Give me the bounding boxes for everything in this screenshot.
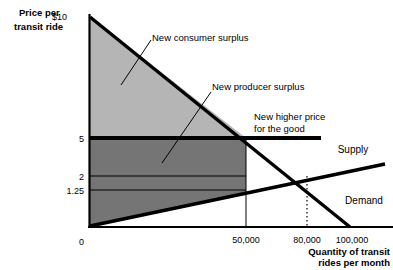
x-axis-title-line1: Quantity of transit xyxy=(308,246,391,257)
producer-surplus-region xyxy=(90,138,246,226)
chart-canvas: Price per transit ride $10 5 2 1.25 0 50… xyxy=(0,0,393,270)
supply-demand-chart: Price per transit ride $10 5 2 1.25 0 50… xyxy=(0,0,393,270)
y-tick-label-2: 2 xyxy=(79,172,84,182)
new-price-label-line1: New higher price xyxy=(254,111,325,122)
producer-surplus-label: New producer surplus xyxy=(212,81,305,92)
demand-curve-label: Demand xyxy=(345,195,383,206)
x-tick-label-100k: 100,000 xyxy=(336,235,369,245)
supply-curve-label: Supply xyxy=(338,144,369,155)
x-axis-title-line2: rides per month xyxy=(318,257,390,268)
x-tick-label-80k: 80,000 xyxy=(293,235,321,245)
y-axis-title-line2: transit ride xyxy=(14,21,63,32)
x-tick-label-50k: 50,000 xyxy=(232,235,260,245)
y-tick-label-0: 0 xyxy=(79,237,84,247)
y-tick-label-5: 5 xyxy=(79,134,84,144)
new-price-label-line2: for the good xyxy=(254,123,305,134)
consumer-surplus-label: New consumer surplus xyxy=(152,32,249,43)
y-tick-label-125: 1.25 xyxy=(66,186,84,196)
y-tick-label-10: $10 xyxy=(52,12,67,22)
